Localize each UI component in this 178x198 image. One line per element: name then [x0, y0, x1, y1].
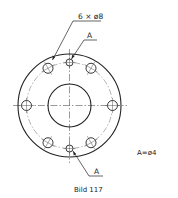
hole-legend: A=ø4	[137, 149, 157, 157]
callout-hole-pattern: 6 × ø8	[53, 12, 104, 60]
marked-hole-label-bottom: A	[94, 167, 100, 176]
figure-caption: Bild 117	[74, 186, 103, 194]
bolt-hole-o8	[42, 136, 55, 149]
bolt-hole-o8	[85, 136, 98, 149]
marked-hole-label-top: A	[87, 31, 93, 40]
callout-marked-hole-bottom: A	[73, 151, 103, 176]
bolt-hole-o8	[42, 62, 55, 75]
leader-line	[73, 151, 89, 176]
bolt-hole-o8	[19, 98, 34, 113]
bolt-hole-o8	[85, 62, 98, 75]
technical-drawing: 6 × ø8 A A A=ø4 Bild 117	[0, 0, 178, 198]
hole-pattern-label: 6 × ø8	[78, 12, 103, 21]
bolt-hole-o8	[105, 98, 120, 113]
marked-hole-a	[64, 57, 76, 69]
